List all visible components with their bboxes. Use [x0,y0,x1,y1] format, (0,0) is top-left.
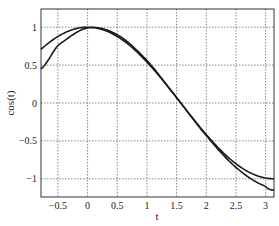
curves [41,27,274,190]
y-tick-label: 1 [32,22,37,33]
x-tick-label: 3 [263,200,268,211]
x-tick-label: 0.5 [111,200,124,211]
x-tick-label: 1.5 [170,200,183,211]
x-tick-label: 2 [204,200,209,211]
line-chart: −0.500.511.522.53 −1−0.500.51 t cos(t) [0,0,279,226]
x-tick-label: −0.5 [49,200,67,211]
y-tick-label: 0.5 [25,60,38,71]
y-axis-label: cos(t) [4,90,17,115]
x-axis-label: t [155,210,158,222]
x-tick-label: 0 [85,200,90,211]
y-tick-label: −1 [26,173,37,184]
x-tick-label: 2.5 [230,200,243,211]
y-tick-label: 0 [32,98,37,109]
y-tick-labels: −1−0.500.51 [19,22,37,185]
x-tick-label: 1 [144,200,149,211]
y-tick-label: −0.5 [19,135,37,146]
grid-lines [41,9,274,197]
